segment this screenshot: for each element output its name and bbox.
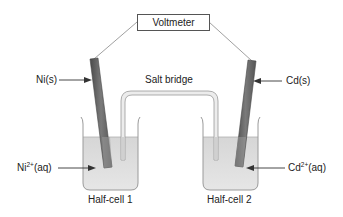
arrow-ni-s (59, 77, 92, 83)
beaker-half-cell-2 (201, 117, 260, 190)
voltmeter: Voltmeter (137, 14, 210, 31)
ni-ion-charge: 2+ (26, 161, 33, 168)
ni-ion-state: (aq) (34, 162, 52, 173)
wire-left (94, 22, 137, 59)
voltmeter-label: Voltmeter (152, 17, 194, 28)
cd-ion-symbol: Cd (288, 162, 301, 173)
wire-right (209, 22, 252, 61)
cell-diagram (0, 0, 343, 217)
cd-ion-state: (aq) (308, 162, 326, 173)
half-cell-2-label: Half-cell 2 (207, 194, 251, 206)
arrow-ni-aq (58, 165, 96, 171)
arrow-cd-aq (246, 165, 285, 171)
arrow-cd-s (253, 78, 282, 84)
cd-solution-label: Cd2+(aq) (288, 162, 326, 174)
salt-bridge-label: Salt bridge (145, 74, 193, 86)
half-cell-1-label: Half-cell 1 (88, 194, 132, 206)
ni-solution-label: Ni2+(aq) (17, 162, 52, 174)
cd-electrode-label: Cd(s) (286, 75, 310, 87)
ni-electrode-label: Ni(s) (36, 74, 57, 86)
